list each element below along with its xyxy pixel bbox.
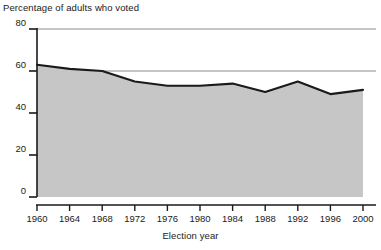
y-tick-label-80: 80 xyxy=(15,17,26,28)
x-tick-label-1996: 1996 xyxy=(320,213,341,224)
area-fill xyxy=(37,65,363,197)
y-axis-tick-group xyxy=(29,29,37,197)
x-tick-label-1984: 1984 xyxy=(222,213,243,224)
y-axis-label-group: 020406080 xyxy=(15,17,26,196)
y-tick-label-20: 20 xyxy=(15,143,26,154)
x-tick-label-1988: 1988 xyxy=(255,213,276,224)
chart-container: Percentage of adults who voted 020406080… xyxy=(0,0,381,250)
x-tick-label-1972: 1972 xyxy=(124,213,145,224)
area-series-group xyxy=(37,65,363,197)
x-axis-title: Election year xyxy=(0,230,381,241)
x-tick-label-2000: 2000 xyxy=(352,213,373,224)
x-tick-label-1980: 1980 xyxy=(189,213,210,224)
x-tick-label-1968: 1968 xyxy=(92,213,113,224)
x-tick-label-1976: 1976 xyxy=(157,213,178,224)
y-tick-label-40: 40 xyxy=(15,101,26,112)
gridline-group xyxy=(37,29,376,71)
x-tick-label-1964: 1964 xyxy=(59,213,80,224)
x-tick-label-1960: 1960 xyxy=(26,213,47,224)
y-tick-label-0: 0 xyxy=(21,185,26,196)
x-axis-tick-group xyxy=(37,205,363,211)
y-tick-label-60: 60 xyxy=(15,59,26,70)
x-axis-label-group: 1960196419681972197619801984198819921996… xyxy=(26,213,373,224)
x-tick-label-1992: 1992 xyxy=(287,213,308,224)
chart-plot-area: 020406080 196019641968197219761980198419… xyxy=(0,0,381,250)
